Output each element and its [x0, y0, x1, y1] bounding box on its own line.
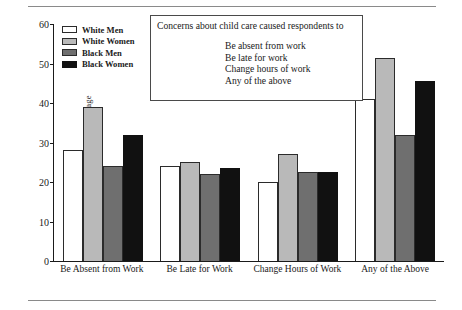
annotation-item: Any of the above — [225, 75, 356, 87]
bar[interactable] — [200, 174, 220, 261]
y-tick-label: 60 — [39, 19, 49, 30]
x-axis-labels: Be Absent from WorkBe Late for WorkChang… — [53, 264, 444, 274]
bar[interactable] — [415, 81, 435, 261]
legend-item[interactable]: White Men — [62, 24, 135, 36]
y-tick-label: 40 — [39, 98, 49, 109]
annotation-item: Be late for work — [225, 52, 356, 64]
bar[interactable] — [220, 168, 240, 261]
y-tick-label: 50 — [39, 58, 49, 69]
x-axis-label: Any of the Above — [346, 264, 444, 274]
bar[interactable] — [63, 150, 83, 261]
y-tick-label: 30 — [39, 137, 49, 148]
bottom-rule — [28, 300, 436, 301]
x-axis-label: Change Hours of Work — [249, 264, 347, 274]
legend-swatch-icon — [62, 38, 77, 45]
y-tick-mark — [50, 261, 54, 262]
legend-item[interactable]: White Women — [62, 36, 135, 48]
top-rule — [28, 6, 436, 7]
legend-label: White Men — [82, 25, 123, 35]
annotation-item: Be absent from work — [225, 40, 356, 52]
legend-label: White Women — [82, 36, 135, 46]
legend-item[interactable]: Black Women — [62, 59, 135, 71]
bar[interactable] — [83, 107, 103, 261]
bar[interactable] — [258, 182, 278, 261]
legend-swatch-icon — [62, 61, 77, 68]
bar[interactable] — [123, 135, 143, 261]
y-tick-label: 20 — [39, 177, 49, 188]
legend-label: Black Women — [82, 59, 133, 69]
x-axis-label: Be Absent from Work — [53, 264, 151, 274]
chart-legend: White MenWhite WomenBlack MenBlack Women — [62, 24, 135, 70]
bar[interactable] — [355, 99, 375, 261]
bar[interactable] — [298, 172, 318, 261]
annotation-box: Concerns about child care caused respond… — [150, 15, 363, 101]
x-axis-label: Be Late for Work — [151, 264, 249, 274]
bar[interactable] — [278, 154, 298, 261]
annotation-list: Be absent from workBe late for workChang… — [157, 40, 356, 86]
legend-label: Black Men — [82, 48, 122, 58]
bar[interactable] — [375, 58, 395, 261]
y-tick-label: 10 — [39, 216, 49, 227]
bar[interactable] — [180, 162, 200, 261]
bar[interactable] — [318, 172, 338, 261]
bar[interactable] — [395, 135, 415, 261]
annotation-item: Change hours of work — [225, 63, 356, 75]
legend-swatch-icon — [62, 49, 77, 56]
annotation-heading: Concerns about child care caused respond… — [157, 20, 356, 31]
y-tick-label: 0 — [44, 256, 49, 267]
bar[interactable] — [160, 166, 180, 261]
bar[interactable] — [103, 166, 123, 261]
legend-swatch-icon — [62, 26, 77, 33]
legend-item[interactable]: Black Men — [62, 47, 135, 59]
